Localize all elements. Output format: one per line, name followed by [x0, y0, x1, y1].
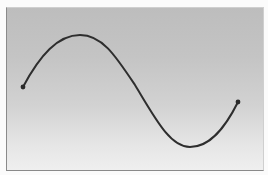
curve-end-point — [236, 100, 241, 105]
sine-curve — [23, 35, 238, 147]
sine-curve-graphic — [0, 0, 268, 175]
curve-start-point — [21, 85, 26, 90]
diagram-canvas — [0, 0, 268, 175]
